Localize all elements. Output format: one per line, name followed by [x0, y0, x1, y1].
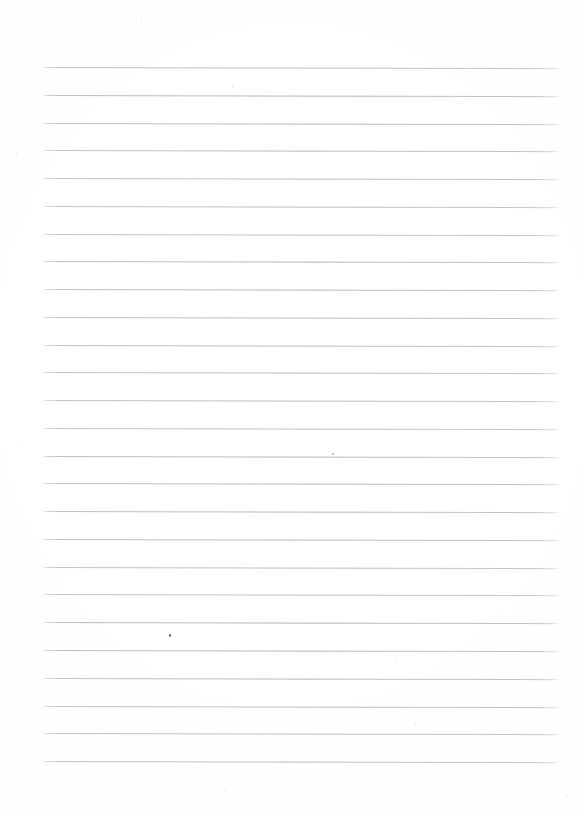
- dust-speck: [224, 790, 225, 792]
- notebook-page: [0, 0, 584, 816]
- dust-speck: [566, 795, 567, 797]
- writing-area[interactable]: [44, 67, 558, 761]
- rule-line: [44, 761, 558, 763]
